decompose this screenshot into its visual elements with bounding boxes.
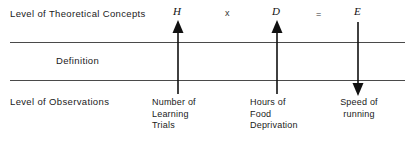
observation-label-food-deprivation: Hours ofFoodDeprivation <box>250 97 298 132</box>
observation-line: Learning <box>152 109 189 119</box>
observation-line: Speed of <box>340 97 378 107</box>
observation-line: Hours of <box>250 97 286 107</box>
theoretical-observation-level-diagram: Level of Theoretical Concepts H x D = E … <box>0 0 410 146</box>
observation-line: running <box>343 109 374 119</box>
observation-line: Deprivation <box>250 120 298 130</box>
observation-line: Number of <box>152 97 196 107</box>
observation-label-speed-of-running: Speed ofrunning <box>330 97 388 120</box>
observation-label-learning-trials: Number ofLearningTrials <box>152 97 196 132</box>
observation-line: Food <box>250 109 271 119</box>
arrow-e-down-icon <box>0 0 410 146</box>
observation-line: Trials <box>152 120 175 130</box>
